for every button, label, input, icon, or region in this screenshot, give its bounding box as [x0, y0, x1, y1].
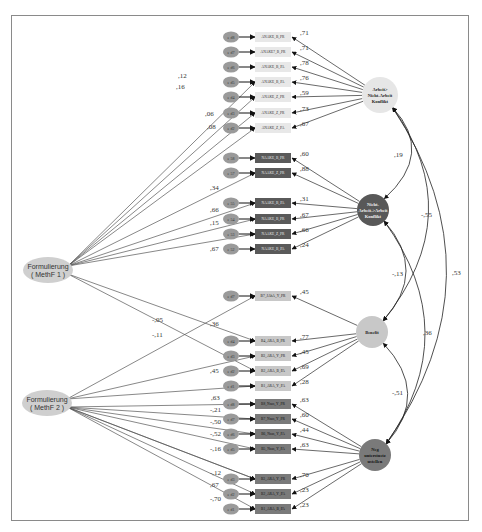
error-term: e d2 [223, 489, 255, 500]
loading-value: ,63 [300, 441, 309, 449]
indicator-label: ANAKE7_B_PR [261, 50, 286, 54]
method-loading-value: ,34 [210, 184, 219, 192]
method-factor: Formulierung( MethF 1 ) [23, 257, 73, 283]
indicator-box: NAAKE_Z_PR [255, 229, 291, 239]
error-term: e d1 [223, 504, 255, 515]
loading-value: ,23 [300, 501, 309, 509]
indicator-label: ANAKE_Z_PR [262, 111, 285, 115]
error-label: e d4 [228, 339, 235, 344]
method-loading-value: ,63 [211, 394, 220, 402]
method-label: Formulierung [26, 396, 67, 404]
indicator-box: B4_ARA_B_PR [255, 336, 291, 346]
error-term: e d6 [223, 62, 255, 73]
loading-value: ,60 [300, 411, 309, 419]
loading-value: ,67 [300, 120, 309, 128]
indicator-label: ANAKE_B_PR [262, 35, 286, 39]
latent-label: Neg [371, 447, 379, 452]
error-label: e d8 [228, 402, 235, 407]
error-label: e d1 [228, 384, 235, 389]
error-term: e d7 [223, 414, 255, 425]
indicator-label: B3_ARA_Y_PR [261, 354, 286, 358]
error-label: e d4 [228, 95, 235, 100]
indicator-box: NAAKE_Z_PR [255, 168, 291, 178]
latent-label: ustellen [368, 459, 383, 464]
error-term: e d3 [223, 474, 255, 485]
factor-loading: ,63 [292, 396, 361, 447]
method-factor-paths: ,12,16,06,08,34,66,15,67,36-,11-,05,45,6… [67, 72, 255, 509]
loading-value: ,73 [300, 105, 309, 113]
loading-value: ,66 [300, 226, 309, 234]
correlation-value: ,36 [423, 329, 432, 337]
factor-loading: ,63 [292, 441, 359, 454]
method-loading-value: -,21 [210, 406, 222, 414]
latent-factor: Negunterstuetzustellen [359, 439, 391, 471]
correlation-arc: -,55 [383, 108, 432, 321]
error-term: e d4 [223, 336, 255, 347]
error-label: e d8 [228, 35, 235, 40]
error-term: e 57 [223, 168, 255, 179]
method-loading-value: ,36 [210, 320, 219, 328]
loading-value: ,24 [300, 241, 309, 249]
method-loading-value: ,45 [210, 367, 219, 375]
indicator-box: B3_ARA_Y_PR [255, 351, 291, 361]
latent-label: Nicht-Arbeit [368, 93, 393, 98]
indicator-box: ANAKE_Z_PA [255, 123, 291, 133]
error-term: e 58 [223, 153, 255, 164]
indicator-label: B3_ARA_Y_PR [261, 477, 286, 481]
error-label: e d2 [228, 369, 235, 374]
method-path: ,15 [68, 219, 255, 266]
loading-value: ,71 [300, 44, 309, 52]
method-loading-value: ,15 [210, 219, 219, 227]
factor-loading: ,70 [292, 459, 360, 479]
error-term: e 52 [223, 244, 255, 255]
latent-label: unterstuetz [364, 453, 386, 458]
method-loading-value: ,08 [207, 123, 216, 131]
correlation-arcs: ,19-,55,53-,13,36-,51 [383, 108, 461, 444]
error-label: e d3 [228, 354, 235, 359]
latent-label: Benefit [365, 330, 379, 335]
latent-label: Konflikt [365, 214, 382, 219]
indicator-box: ANAKE_B_PR [255, 32, 291, 42]
latent-label: Nicht- [367, 202, 379, 207]
indicator-label: B5_Nsus_Y_PA [261, 447, 285, 451]
indicator-box: B6_Nsus_Y_PA [255, 429, 291, 439]
indicator-box: ANAKE_Z_PR [255, 92, 291, 102]
indicator-label: NAAKE_B_PR [262, 156, 286, 160]
method-loading-value: ,67 [210, 245, 219, 253]
indicator-label: B7_JAhA_Y_PR [261, 294, 287, 298]
indicator-label: NAAKE_B_PA [262, 247, 285, 251]
error-term: e d7 [223, 47, 255, 58]
error-term: e 55 [223, 198, 255, 209]
error-label: e d7 [228, 417, 235, 422]
indicator-box: B1_ARA_Y_PA [255, 381, 291, 391]
indicator-label: B8_Nsus_Y_PR [261, 402, 285, 406]
indicator-box: B7_Nsus_Y_PR [255, 414, 291, 424]
error-term: e d8 [223, 399, 255, 410]
loading-value: ,45 [300, 288, 309, 296]
indicator-label: ANAKE_Z_PR [262, 95, 285, 99]
indicator-box: ANAKE7_B_PR [255, 47, 291, 57]
method-loading-value: -,52 [210, 430, 222, 438]
loading-value: ,88 [300, 165, 309, 173]
latent-label: Arbeit> [372, 87, 387, 92]
factor-loading: ,59 [292, 89, 362, 97]
loading-value: ,60 [300, 150, 309, 158]
error-term: e d4 [223, 92, 255, 103]
error-label: e 53 [228, 232, 235, 237]
error-term: e d6 [223, 429, 255, 440]
correlation-arc: ,19 [384, 108, 412, 199]
error-term: e d5 [223, 77, 255, 88]
indicator-box: ANAKE_Z_PR [255, 108, 291, 118]
correlation-value: -,51 [392, 389, 404, 397]
indicator-label: NAAKE_B_PR [262, 217, 286, 221]
loading-value: ,70 [300, 471, 309, 479]
indicator-label: B2_ARA_Y_PA [261, 492, 285, 496]
factor-loading: ,60 [292, 150, 359, 201]
indicators: ANAKE_B_PRANAKE7_B_PRANAKE_B_PAANAKE_B_P… [255, 32, 291, 514]
method-loading-value: ,16 [176, 83, 185, 91]
error-label: e d1 [228, 507, 235, 512]
error-term: e 53 [223, 229, 255, 240]
error-label: e d7 [228, 50, 235, 55]
error-label: e d6 [228, 65, 235, 70]
method-loading-value: ,66 [210, 206, 219, 214]
